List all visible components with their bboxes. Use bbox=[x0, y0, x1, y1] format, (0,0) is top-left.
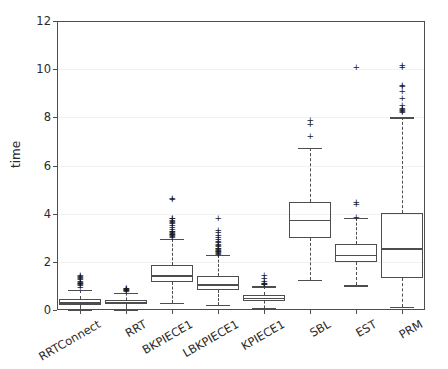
x-tick-label-rrt: RRT bbox=[123, 317, 149, 340]
x-tick-label-prm: PRM bbox=[396, 317, 425, 342]
x-tick-mark bbox=[172, 310, 173, 314]
y-tick-label: 2 bbox=[44, 255, 51, 269]
y-tick-label: 10 bbox=[36, 62, 51, 76]
x-tick-label-sbl: SBL bbox=[307, 317, 333, 340]
x-tick-mark bbox=[80, 310, 81, 314]
x-tick-mark bbox=[310, 310, 311, 314]
y-tick-label: 12 bbox=[36, 14, 51, 28]
y-axis-label: time bbox=[9, 141, 23, 168]
x-tick-label-rrtconnect: RRTConnect bbox=[36, 317, 103, 364]
y-tick-label: 4 bbox=[44, 207, 51, 221]
x-tick-mark bbox=[356, 310, 357, 314]
y-tick-label: 8 bbox=[44, 110, 51, 124]
x-tick-mark bbox=[264, 310, 265, 314]
y-tick-mark bbox=[53, 310, 57, 311]
boxplot-figure: time 024681012 RRTConnectRRTBKPIECE1LBKP… bbox=[0, 0, 448, 369]
x-tick-label-est: EST bbox=[353, 317, 379, 340]
x-tick-mark bbox=[126, 310, 127, 314]
x-tick-mark bbox=[402, 310, 403, 314]
y-tick-label: 0 bbox=[44, 303, 51, 317]
x-tick-label-kpiece1: KPIECE1 bbox=[239, 317, 287, 353]
axes-frame bbox=[57, 21, 425, 310]
plot-area: 024681012 RRTConnectRRTBKPIECE1LBKPIECE1… bbox=[57, 21, 425, 310]
y-tick-label: 6 bbox=[44, 159, 51, 173]
x-tick-mark bbox=[218, 310, 219, 314]
